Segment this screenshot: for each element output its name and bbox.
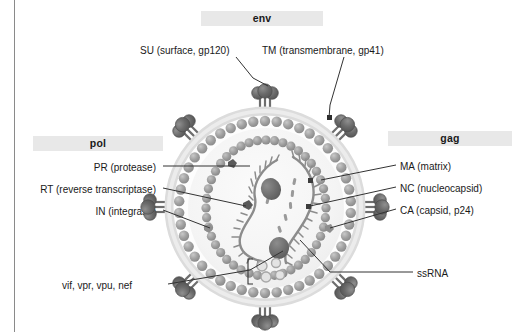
capsid-dot [270, 136, 279, 145]
virion-drawing [0, 0, 516, 332]
matrix-bead [215, 128, 225, 138]
matrix-bead [260, 116, 270, 126]
capsid-dot [286, 265, 295, 274]
matrix-bead [226, 123, 236, 133]
hiv-virion-figure: env pol gag SU (surface, gp120) TM (tran… [0, 0, 516, 332]
matrix-bead [226, 281, 236, 291]
matrix-bead [344, 184, 354, 194]
matrix-bead [330, 251, 340, 261]
capsid-dot [316, 232, 325, 241]
matrix-bead [272, 287, 282, 297]
capsid-dot [321, 203, 330, 212]
capsid-dot [253, 136, 262, 145]
capsid-dot [201, 203, 210, 212]
matrix-bead [346, 208, 356, 218]
matrix-bead [294, 123, 304, 133]
matrix-bead [304, 275, 314, 285]
matrix-bead [248, 287, 258, 297]
matrix-bead [341, 231, 351, 241]
matrix-bead [237, 119, 247, 129]
leader-tm [329, 57, 344, 118]
matrix-bead [174, 196, 184, 206]
matrix-bead [197, 261, 207, 271]
matrix-bead [272, 117, 282, 127]
capsid-dot [319, 184, 328, 193]
capsid-dot [222, 255, 231, 264]
capsid-dot [211, 240, 220, 249]
matrix-bead [283, 285, 293, 295]
matrix-bead [260, 288, 270, 298]
matrix-bead [206, 135, 216, 145]
matrix-bead [330, 152, 340, 162]
matrix-bead [323, 143, 333, 153]
matrix-bead [183, 241, 193, 251]
capsid-dot [278, 138, 287, 147]
matrix-bead [179, 173, 189, 183]
capsid-dot [216, 248, 225, 257]
capsid-dot [321, 213, 330, 222]
capsid-dot [216, 159, 225, 168]
capsid-dot [236, 142, 245, 151]
capsid-dot [207, 232, 216, 241]
matrix-bead [283, 119, 293, 129]
capsid-dot [245, 138, 254, 147]
matrix-bead [294, 281, 304, 291]
matrix-bead [176, 219, 186, 229]
matrix-bead [314, 135, 324, 145]
matrix-bead [190, 152, 200, 162]
capsid-dot [202, 213, 211, 222]
leader-su [236, 57, 268, 86]
matrix-bead [190, 251, 200, 261]
capsid-dot [211, 167, 220, 176]
capsid-dot [204, 184, 213, 193]
matrix-bead [344, 219, 354, 229]
matrix-bead [183, 162, 193, 172]
matrix-bead [336, 241, 346, 251]
matrix-bead [304, 128, 314, 138]
matrix-bead [237, 285, 247, 295]
capsid-dot [207, 175, 216, 184]
matrix-bead [248, 117, 258, 127]
matrix-bead [179, 231, 189, 241]
matrix-bead [197, 143, 207, 153]
matrix-bead [215, 275, 225, 285]
capsid-dot [312, 240, 321, 249]
matrix-bead [336, 162, 346, 172]
matrix-bead [314, 269, 324, 279]
capsid-dot [261, 135, 270, 144]
